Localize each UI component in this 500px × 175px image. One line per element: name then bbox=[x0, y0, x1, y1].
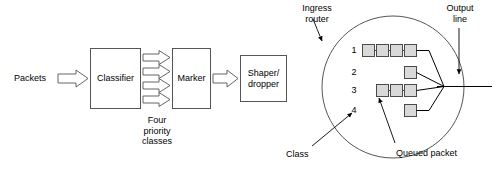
priority-class-arrow-3 bbox=[143, 79, 170, 93]
queued-packet-label: Queued packet bbox=[396, 148, 476, 159]
queued-packet bbox=[405, 105, 417, 117]
priority-class-arrow-2 bbox=[143, 65, 170, 79]
packets-input-arrow bbox=[58, 70, 88, 87]
queued-packet bbox=[377, 45, 389, 57]
queue-class-number-2: 2 bbox=[349, 67, 359, 77]
priority-class-arrow-1 bbox=[143, 51, 170, 65]
queued-packet bbox=[363, 45, 375, 57]
queue-class-number-1: 1 bbox=[349, 45, 359, 55]
queued-packet bbox=[405, 67, 417, 79]
queue-class-number-3: 3 bbox=[349, 85, 359, 95]
output-line-label: Output line bbox=[435, 3, 485, 24]
figure-canvas: Packets Classifier Marker Shaper/ droppe… bbox=[0, 0, 500, 175]
marker-label: Marker bbox=[172, 48, 211, 109]
classifier-label: Classifier bbox=[90, 48, 141, 109]
priority-class-arrow-4 bbox=[143, 93, 170, 107]
queued-packet bbox=[405, 45, 417, 57]
queued-packet bbox=[391, 45, 403, 57]
shaper-dropper-label: Shaper/ dropper bbox=[240, 55, 287, 102]
queued-packet bbox=[405, 85, 417, 97]
queue-class-number-4: 4 bbox=[349, 105, 359, 115]
packets-input-label: Packets bbox=[14, 73, 58, 84]
marker-to-shaper-arrow bbox=[213, 70, 238, 87]
queued-packet bbox=[377, 85, 389, 97]
ingress-router-label: Ingress router bbox=[290, 3, 344, 24]
class-label: Class bbox=[286, 149, 326, 160]
queued-packet bbox=[391, 85, 403, 97]
four-priority-classes-caption: Four priority classes bbox=[128, 115, 186, 147]
